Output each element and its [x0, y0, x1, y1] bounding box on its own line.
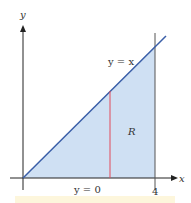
diagram: y x y = x y = 0 R 4: [0, 0, 191, 203]
footer-strip: [15, 196, 175, 203]
region-label: R: [127, 126, 136, 137]
y-axis-arrow-icon: [20, 25, 26, 32]
x-axis-arrow-icon: [171, 175, 178, 181]
curve-label-y-equals-0: y = 0: [73, 184, 101, 195]
tick-label-4: 4: [152, 186, 158, 197]
x-axis-label: x: [179, 173, 185, 184]
curve-label-y-equals-x: y = x: [107, 56, 134, 67]
y-axis-label: y: [19, 9, 26, 20]
